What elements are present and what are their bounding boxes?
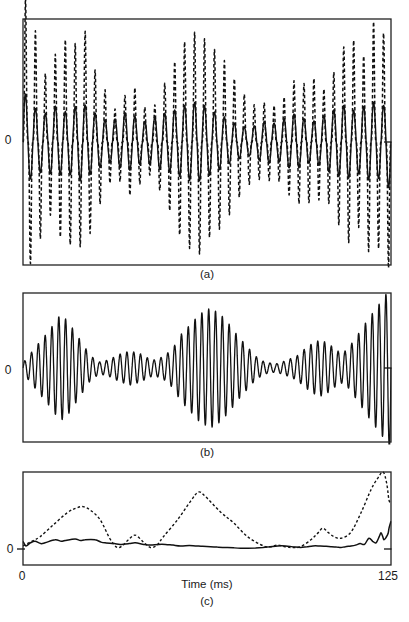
amplitude-modulated-waveform [23, 294, 391, 448]
envelope-dashed [23, 472, 391, 548]
envelope-solid [23, 521, 391, 548]
panel-a-zero-label: 0 [0, 134, 16, 147]
panel-c-caption: (c) [23, 595, 391, 608]
panel-c-zero-label: 0 [2, 543, 18, 556]
waveform-figure: 0 (a) 0 (b) 0 0 125 Time (ms) (c) [0, 0, 409, 622]
panel-a-caption: (a) [23, 268, 391, 281]
x-axis-title: Time (ms) [23, 578, 391, 591]
waveform-plot-canvas [0, 0, 409, 622]
panel-b-zero-label: 0 [0, 364, 16, 377]
panel-b-caption: (b) [23, 446, 391, 459]
panel-c-frame [23, 472, 391, 565]
